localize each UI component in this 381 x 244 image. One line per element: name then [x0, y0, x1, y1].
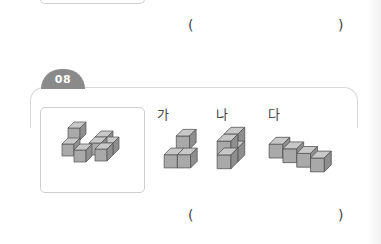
- prev-answer-field[interactable]: [198, 17, 333, 37]
- prev-answer-paren-open: (: [188, 17, 193, 33]
- question-number-badge: 08: [41, 69, 85, 89]
- answer-paren-open: (: [188, 207, 193, 223]
- option-label-ga: 가: [157, 104, 169, 123]
- option-label-da: 다: [268, 104, 280, 123]
- given-figure-box: [40, 107, 145, 193]
- option-label-na: 나: [216, 104, 228, 123]
- given-cube-figure: [41, 108, 144, 192]
- option-na-cube-figure: [216, 125, 256, 175]
- prev-answer-paren-close: ): [338, 17, 343, 33]
- previous-figure-box: [40, 0, 145, 4]
- answer-field[interactable]: [198, 207, 333, 227]
- page-edge-shadow: [367, 0, 381, 244]
- option-da-cube-figure: [268, 135, 338, 175]
- option-ga-cube-figure: [162, 125, 202, 175]
- answer-paren-close: ): [338, 207, 343, 223]
